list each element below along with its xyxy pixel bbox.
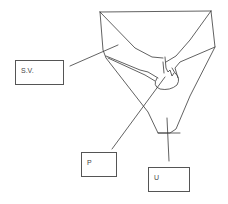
label-p: P xyxy=(81,152,117,177)
label-p-text: P xyxy=(87,159,92,166)
label-u-text: U xyxy=(154,174,159,181)
label-u: U xyxy=(148,167,190,192)
label-sv: S.V. xyxy=(15,60,64,85)
diagram-canvas: S.V. P U xyxy=(0,0,228,204)
label-sv-text: S.V. xyxy=(21,67,34,74)
